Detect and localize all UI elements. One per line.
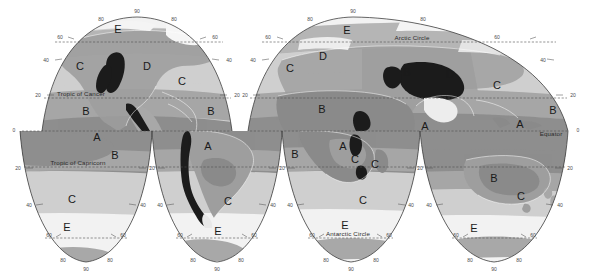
climate-zone-label-c: C [286,62,294,74]
tick-label: 90 [348,266,354,272]
tick-label: 40 [43,57,49,63]
climate-zone-label-d: D [143,60,151,72]
climate-zone-label-b: B [490,172,497,184]
climate-zone-label-b: B [291,148,298,160]
tick-label: 90 [491,266,497,272]
tick-label: 40 [270,202,276,208]
tick-label: 0 [13,127,16,133]
climate-zone-label-b: B [318,103,325,115]
lobe-south-australia [412,128,576,270]
climate-zone-label-c: C [517,190,525,202]
tick-label: 40 [26,202,32,208]
tick-label: 40 [140,202,146,208]
tick-label: 60 [251,232,257,238]
tick-label: 20 [567,165,573,171]
tick-label: 40 [226,57,232,63]
equator-label: Equator [540,130,563,137]
tick-label: 60 [57,34,63,40]
antarctic-circle-label: Antarctic Circle [326,230,370,237]
climate-zone-label-a: A [516,118,524,130]
tick-label: 60 [386,232,392,238]
climate-zone-label-e: E [341,219,348,231]
climate-zone-label-e: E [343,24,350,36]
tick-label: 20 [417,165,423,171]
tick-label: 80 [171,16,177,22]
climate-zone-label-e: E [214,225,221,237]
tick-label: 60 [309,232,315,238]
tick-label: 60 [212,34,218,40]
tropic-of-cancer-label: Tropic of Cancer [57,90,105,97]
tick-label: 0 [577,127,580,133]
tick-label: 40 [426,202,432,208]
tick-label: 20 [570,92,576,98]
tick-label: 40 [540,57,546,63]
climate-zone-label-a: A [93,131,101,143]
tick-label: 90 [83,266,89,272]
climate-zone-label-b: B [207,105,214,117]
climate-zone-label-a: A [204,140,212,152]
tick-label: 80 [98,16,104,22]
climate-zone-label-b: B [356,166,363,178]
tick-label: 60 [46,232,52,238]
tick-label: 60 [177,232,183,238]
tick-label: 80 [516,257,522,263]
climate-zone-label-c: C [178,75,186,87]
tick-label: 90 [350,8,356,14]
tick-label: 80 [307,16,313,22]
tick-label: 80 [107,257,113,263]
lobe-south-americas [145,128,292,270]
tick-label: 20 [234,92,240,98]
climate-zone-label-b: B [82,105,89,117]
climate-zone-label-c: C [76,60,84,72]
climate-zone-label-c: C [359,194,367,206]
tick-label: 80 [373,257,379,263]
climate-zone-label-a: A [339,140,347,152]
arctic-circle-label: Arctic Circle [395,34,430,41]
climate-zone-label-c: C [493,79,501,91]
tick-label: 40 [287,202,293,208]
tick-label: 60 [530,232,536,238]
climate-zone-label-b: B [403,66,410,78]
tick-label: 90 [214,266,220,272]
tick-label: 20 [35,92,41,98]
climate-zone-label-d: D [446,68,454,80]
tick-label: 20 [242,92,248,98]
tick-label: 80 [190,257,196,263]
climate-map: 90 80 80 60 60 40 40 20 20 90 80 80 60 6… [0,0,589,279]
tick-label: 80 [238,257,244,263]
climate-zone-label-e: E [63,221,70,233]
climate-zone-label-c: C [224,195,232,207]
climate-zone-label-e: E [114,23,121,35]
tick-label: 80 [60,257,66,263]
tick-label: 40 [157,202,163,208]
climate-zone-label-c: C [371,158,379,170]
climate-zone-label-c: C [68,193,76,205]
tick-label: 60 [120,232,126,238]
tick-label: 20 [149,165,155,171]
tick-label: 40 [408,202,414,208]
tick-label: 60 [453,232,459,238]
tick-label: 20 [15,165,21,171]
tick-label: 20 [279,165,285,171]
tick-label: 90 [134,8,140,14]
map-canvas: 90 80 80 60 60 40 40 20 20 90 80 80 60 6… [0,0,589,279]
climate-zone-label-b: B [111,149,118,161]
climate-zone-label-a: A [421,120,429,132]
climate-zone-label-e: E [470,222,477,234]
tropic-of-capricorn-label: Tropic of Capricorn [50,159,106,166]
tick-label: 40 [557,202,563,208]
climate-zone-label-d: D [319,50,327,62]
climate-zone-label-b: B [549,104,556,116]
tick-label: 40 [250,57,256,63]
tick-label: 60 [494,34,500,40]
tick-label: 80 [467,257,473,263]
climate-zone-label-c: C [351,153,359,165]
tick-label: 80 [323,257,329,263]
tick-label: 80 [420,16,426,22]
tick-label: 60 [265,34,271,40]
